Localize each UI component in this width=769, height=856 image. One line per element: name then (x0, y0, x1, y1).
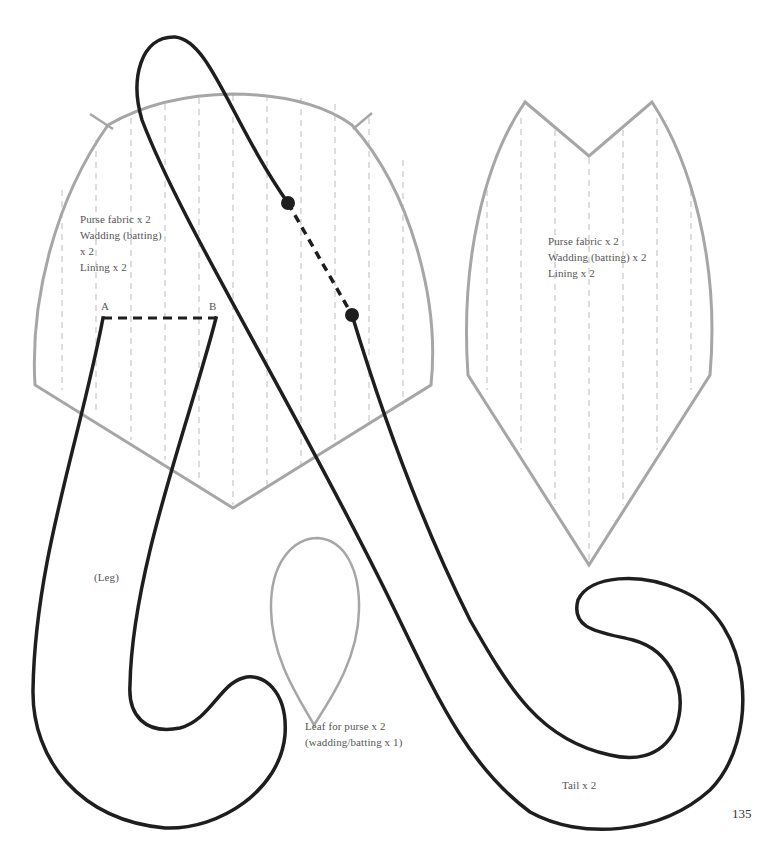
purse-front-guide-lines (487, 118, 691, 560)
leg-label: (Leg) (94, 569, 119, 585)
purse-back-label-line-4: Lining x 2 (80, 259, 162, 275)
purse-back-label-line-1: Purse fabric x 2 (80, 211, 162, 227)
leaf-piece (271, 538, 359, 725)
leaf-label-line-2: (wadding/batting x 1) (305, 734, 402, 750)
purse-back-label-line-3: x 2 (80, 243, 162, 259)
tail-mark-dot-top (281, 196, 295, 210)
sewing-pattern-page: Purse fabric x 2 Wadding (batting) x 2 L… (0, 0, 769, 856)
purse-back-label: Purse fabric x 2 Wadding (batting) x 2 L… (80, 211, 162, 275)
purse-front-piece (467, 102, 712, 565)
point-a-label: A (101, 298, 109, 314)
purse-front-label-line-1: Purse fabric x 2 (548, 233, 647, 249)
purse-front-label-line-3: Lining x 2 (548, 265, 647, 281)
tail-opening (288, 203, 352, 315)
tail-label: Tail x 2 (562, 777, 596, 793)
notch-left (90, 114, 113, 129)
tail-mark-dot-bottom (345, 308, 359, 322)
purse-front-label-line-2: Wadding (batting) x 2 (548, 249, 647, 265)
leg-piece (33, 318, 285, 828)
purse-front-label: Purse fabric x 2 Wadding (batting) x 2 L… (548, 233, 647, 281)
point-b-label: B (209, 298, 216, 314)
leaf-label-line-1: Leaf for purse x 2 (305, 718, 402, 734)
tail-outline (137, 37, 743, 829)
tail-piece (137, 37, 743, 829)
page-number: 135 (732, 806, 752, 822)
leaf-label: Leaf for purse x 2 (wadding/batting x 1) (305, 718, 402, 750)
purse-back-label-line-2: Wadding (batting) (80, 227, 162, 243)
leg-outline (33, 318, 285, 828)
